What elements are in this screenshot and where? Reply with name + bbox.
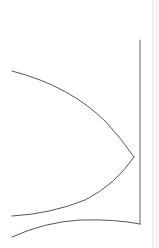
upper-curve bbox=[12, 71, 134, 157]
diagram-canvas bbox=[0, 0, 159, 248]
lower-curve bbox=[12, 157, 134, 216]
bottom-curve bbox=[12, 220, 140, 237]
line-drawing bbox=[0, 0, 159, 248]
right-edge-strip bbox=[152, 0, 159, 248]
